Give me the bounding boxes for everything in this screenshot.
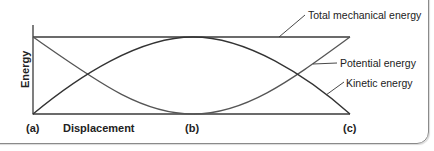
y-axis-label: Energy (19, 50, 31, 88)
x-axis-label: Displacement (63, 122, 135, 134)
total-energy-leader (279, 15, 305, 37)
position-c-label: (c) (343, 122, 357, 134)
kinetic-energy-leader (326, 82, 344, 95)
potential-energy-curve (33, 37, 350, 114)
potential-energy-label: Potential energy (340, 57, 417, 69)
position-a-label: (a) (26, 122, 40, 134)
energy-diagram: Total mechanical energy Potential energy… (0, 0, 434, 151)
total-energy-label: Total mechanical energy (308, 9, 422, 21)
position-b-label: (b) (185, 122, 199, 134)
potential-energy-leader (313, 63, 337, 64)
kinetic-energy-curve (33, 37, 350, 114)
kinetic-energy-label: Kinetic energy (346, 77, 413, 89)
